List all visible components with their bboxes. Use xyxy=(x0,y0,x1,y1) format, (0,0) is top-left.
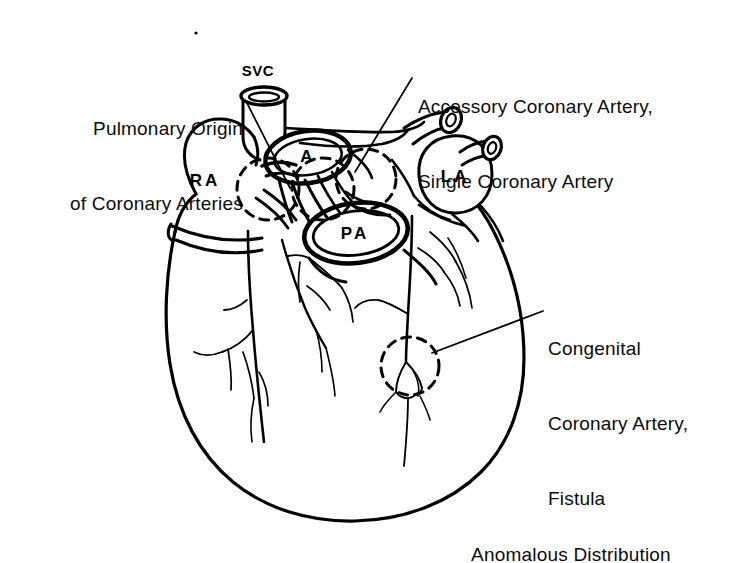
label-pulmonary-artery: PA xyxy=(328,224,382,244)
print-speck xyxy=(194,31,197,34)
callout-pulmonary-origin-line-2: of Coronary Arteries xyxy=(38,191,243,216)
callout-congenital-fistula-line-1: Congenital xyxy=(548,336,728,361)
callout-pulmonary-origin: Pulmonary Origin of Coronary Arteries xyxy=(38,66,243,241)
callout-pulmonary-origin-line-1: Pulmonary Origin xyxy=(38,116,243,141)
caption-anomalous-distribution: Anomalous Distribution of Coronary Arter… xyxy=(440,492,702,563)
callout-accessory-single: Accessory Coronary Artery, Single Corona… xyxy=(418,44,686,219)
leader-accessory-single xyxy=(355,78,412,172)
label-aorta: A xyxy=(290,147,326,167)
label-left-atrium: LA xyxy=(428,167,482,187)
callout-congenital-fistula-line-2: Coronary Artery, xyxy=(548,411,728,436)
label-right-atrium: RA xyxy=(178,171,232,191)
caption-line-1: Anomalous Distribution xyxy=(440,542,702,563)
callout-accessory-single-line-1: Accessory Coronary Artery, xyxy=(418,94,686,119)
label-svc: SVC xyxy=(234,62,282,79)
